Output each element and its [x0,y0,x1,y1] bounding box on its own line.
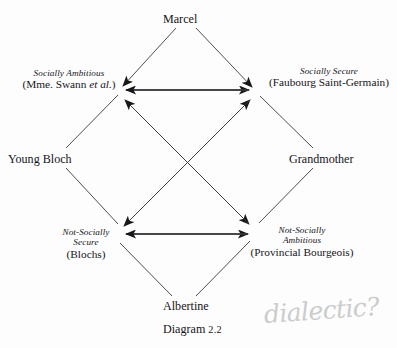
edge-marcel-to-socially-secure [196,28,252,87]
socially-secure-paren-line: (Faubourg Saint-Germain) [261,76,397,89]
node-label-marcel: Marcel [163,12,197,27]
not-socially-ambitious-italic-line-2: Ambitious [232,235,372,245]
socially-ambitious-italic-line: Socially Ambitious [0,68,138,78]
caption-title: Diagram [163,322,205,336]
edge-grandmother-to-socially-secure [260,96,313,148]
not-socially-ambitious-italic-line-1: Not-Socially [232,225,372,235]
mme-swann-text: (Mme. Swann [22,78,89,90]
not-socially-ambitious-paren-line: (Provincial Bourgeois) [232,246,372,259]
diagram-page: Marcel Young Bloch Grandmother Albertine… [0,0,397,348]
not-socially-secure-paren-line: (Blochs) [30,248,142,261]
not-socially-secure-italic-line-2: Secure [30,237,142,247]
edge-not-socially-ambitious-to-socially-ambitious [125,100,249,224]
node-label-young-bloch: Young Bloch [8,152,72,167]
edge-socially-secure-to-not-socially-secure [124,100,250,226]
node-label-socially-secure: Socially Secure (Faubourg Saint-Germain) [261,66,397,89]
edge-grandmother-to-not-socially-ambitious [259,168,313,223]
node-label-grandmother: Grandmother [289,152,353,167]
et-al-text: et al. [89,78,112,90]
paren-close-text: ) [112,78,116,90]
edge-young-bloch-to-socially-ambitious [66,95,118,148]
socially-ambitious-paren-line: (Mme. Swann et al.) [0,78,138,91]
socially-secure-italic-line: Socially Secure [261,66,397,76]
figure-caption: Diagram 2.2 [163,322,222,337]
edge-young-bloch-to-not-socially-secure [66,168,118,224]
caption-number: 2.2 [208,324,222,335]
node-label-not-socially-secure: Not-Socially Secure (Blochs) [30,227,142,260]
node-label-albertine: Albertine [163,299,209,314]
not-socially-secure-italic-line-1: Not-Socially [30,227,142,237]
node-label-not-socially-ambitious: Not-Socially Ambitious (Provincial Bourg… [232,225,372,258]
node-label-socially-ambitious: Socially Ambitious (Mme. Swann et al.) [0,68,138,91]
